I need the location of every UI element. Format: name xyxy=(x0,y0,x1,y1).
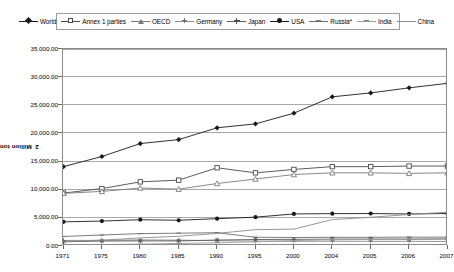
y-axis-ticks: 35,000.0030,000.0025,000.0020,000.0015,0… xyxy=(0,48,58,245)
x-axis-tick-mark xyxy=(216,245,217,249)
legend-item-japan[interactable]: Japan xyxy=(226,14,269,29)
data-point-marker xyxy=(138,141,143,146)
data-point-marker xyxy=(330,94,335,99)
legend-label: Germany xyxy=(194,18,225,25)
data-point-marker xyxy=(369,164,373,168)
x-axis-tick-mark xyxy=(293,245,294,249)
legend-marker-icon xyxy=(19,16,38,27)
data-point-marker xyxy=(138,239,143,244)
legend-label: India xyxy=(376,18,395,25)
data-point-marker xyxy=(176,239,181,244)
legend-label: World xyxy=(38,18,59,25)
data-point-marker xyxy=(253,121,258,126)
x-axis-tick-label: 2004 xyxy=(311,252,351,260)
x-axis-tick-mark xyxy=(255,245,256,249)
series-world xyxy=(63,81,447,170)
y-axis-tick-label: 35,000.00 xyxy=(4,45,58,52)
data-point-marker xyxy=(100,239,105,244)
x-axis-tick-mark xyxy=(139,245,140,249)
data-point-marker xyxy=(407,85,412,90)
legend-marker-icon xyxy=(61,16,80,27)
data-point-marker xyxy=(445,164,447,168)
x-axis-tick-label: 2006 xyxy=(388,252,428,260)
legend-marker-icon xyxy=(397,16,416,27)
legend-marker-icon xyxy=(357,16,376,27)
y-axis-tick-label: 0.00 xyxy=(4,242,58,249)
data-point-marker xyxy=(368,90,373,95)
data-point-marker xyxy=(215,238,220,243)
x-axis-tick-label: 2000 xyxy=(273,252,313,260)
legend-label: OECD xyxy=(150,18,173,25)
data-point-marker xyxy=(253,171,257,175)
data-point-marker xyxy=(215,217,219,221)
x-axis-tick-label: 2007 xyxy=(427,252,454,260)
x-axis-tick-label: 2005 xyxy=(350,252,390,260)
legend-label: Annex 1 parties xyxy=(80,18,129,25)
x-axis-tick-label: 1975 xyxy=(81,252,121,260)
data-point-marker xyxy=(445,239,447,244)
x-axis-tick-mark xyxy=(447,245,448,249)
legend-label: Japan xyxy=(246,18,268,25)
data-point-marker xyxy=(100,219,104,223)
y-axis-tick-label: 15,000.00 xyxy=(4,157,58,164)
data-point-marker xyxy=(177,178,181,182)
x-axis-tick-mark xyxy=(101,245,102,249)
legend-item-world[interactable]: World xyxy=(18,14,60,29)
data-point-marker xyxy=(330,164,334,168)
legend-marker-icon xyxy=(227,16,246,27)
legend-label: Russia* xyxy=(328,18,355,25)
y-axis-tick-label: 20,000.00 xyxy=(4,129,58,136)
legend-item-russia[interactable]: Russia* xyxy=(308,14,356,29)
x-axis-labels: 1971197519801985199019952000200420052006… xyxy=(62,252,447,264)
x-axis-tick-mark xyxy=(63,245,64,249)
series-layer xyxy=(63,49,447,245)
data-point-marker xyxy=(138,180,142,184)
x-axis-tick-label: 1990 xyxy=(196,252,236,260)
series-russia xyxy=(63,233,447,238)
data-point-marker xyxy=(253,215,257,219)
data-point-marker xyxy=(369,211,373,215)
plot-area xyxy=(62,48,447,245)
data-point-marker xyxy=(215,125,220,130)
x-axis-tick-mark xyxy=(370,245,371,249)
legend-marker-icon xyxy=(309,16,328,27)
data-point-marker xyxy=(99,154,104,159)
legend-item-oecd[interactable]: OECD xyxy=(130,14,174,29)
y-axis-tick-label: 25,000.00 xyxy=(4,101,58,108)
legend-marker-icon xyxy=(270,16,289,27)
data-point-marker xyxy=(407,164,411,168)
x-axis-tick-label: 1995 xyxy=(235,252,275,260)
legend-label: China xyxy=(416,18,437,25)
data-point-marker xyxy=(215,166,219,170)
series-line xyxy=(64,173,448,194)
data-point-marker xyxy=(253,237,258,242)
y-axis-tick-label: 30,000.00 xyxy=(4,73,58,80)
data-point-marker xyxy=(330,212,334,216)
x-axis-tick-label: 1980 xyxy=(119,252,159,260)
legend-item-germany[interactable]: Germany xyxy=(174,14,226,29)
legend-item-india[interactable]: India xyxy=(356,14,396,29)
x-axis-tick-mark xyxy=(331,245,332,249)
series-usa xyxy=(63,211,447,224)
legend-marker-icon xyxy=(175,16,194,27)
data-point-marker xyxy=(63,164,66,169)
co2-emissions-line-chart: WorldAnnex 1 partiesOECDGermanyJapanUSAR… xyxy=(0,0,454,272)
data-point-marker xyxy=(138,218,142,222)
legend-item-annex-1-parties[interactable]: Annex 1 parties xyxy=(60,14,130,29)
data-point-marker xyxy=(445,81,447,86)
y-axis-tick-label: 10,000.00 xyxy=(4,185,58,192)
x-axis-tick-mark xyxy=(408,245,409,249)
x-axis-tick-mark xyxy=(178,245,179,249)
data-point-marker xyxy=(63,220,66,224)
data-point-marker xyxy=(291,111,296,116)
data-point-marker xyxy=(292,212,296,216)
data-point-marker xyxy=(177,218,181,222)
legend-item-usa[interactable]: USA xyxy=(269,14,308,29)
legend-marker-icon xyxy=(131,16,150,27)
x-axis-tick-label: 1985 xyxy=(158,252,198,260)
x-axis-tick-label: 1971 xyxy=(43,252,83,260)
legend-label: USA xyxy=(289,18,307,25)
chart-legend: WorldAnnex 1 partiesOECDGermanyJapanUSAR… xyxy=(56,13,400,30)
legend-item-china[interactable]: China xyxy=(396,14,438,29)
data-point-marker xyxy=(176,137,181,142)
